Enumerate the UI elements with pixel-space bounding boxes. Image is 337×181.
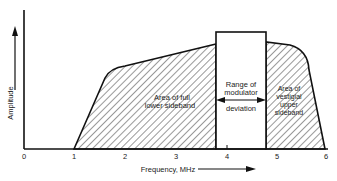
tick-2: 2 xyxy=(123,152,127,161)
upper-label-2: vestigial xyxy=(276,93,302,101)
y-axis-label: Amplitude xyxy=(6,86,15,119)
upper-label-1: Area of xyxy=(278,85,301,92)
lower-label-2: lower sideband xyxy=(145,101,195,110)
tick-0: 0 xyxy=(22,152,26,161)
tick-3: 3 xyxy=(174,152,178,161)
sideband-diagram: Amplitude 0 1 2 3 4 5 6 Frequency, MHz A… xyxy=(0,0,337,181)
y-arrow-icon xyxy=(12,26,18,36)
x-axis-label: Frequency, MHz xyxy=(141,165,196,174)
x-arrow-icon xyxy=(246,166,256,172)
upper-label-3: upper xyxy=(280,101,299,109)
tick-6: 6 xyxy=(324,152,328,161)
tick-4: 4 xyxy=(225,152,229,161)
center-label-2: modulator xyxy=(224,88,258,97)
upper-label-4: sideband xyxy=(275,109,304,116)
tick-1: 1 xyxy=(72,152,76,161)
center-label-3: deviation xyxy=(226,104,256,113)
tick-5: 5 xyxy=(275,152,279,161)
